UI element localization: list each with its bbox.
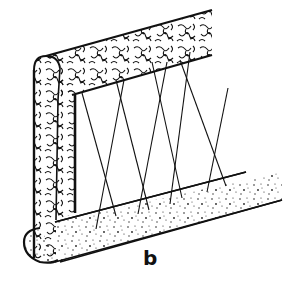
top-rail [46, 10, 212, 98]
figure-label: b [143, 248, 157, 268]
